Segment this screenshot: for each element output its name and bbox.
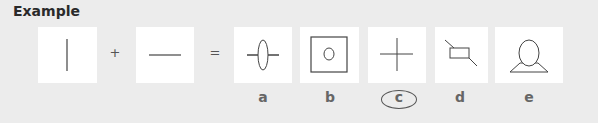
plus-cross-icon: [368, 27, 426, 83]
input-box-horizontal-line: [136, 27, 194, 83]
option-c-label[interactable]: c: [395, 89, 403, 105]
vertical-line-icon: [38, 27, 97, 83]
example-heading: Example: [13, 3, 80, 19]
option-e-label[interactable]: e: [524, 89, 534, 105]
option-c-box[interactable]: [368, 27, 426, 83]
option-b-label[interactable]: b: [325, 89, 335, 105]
input-box-vertical-line: [38, 27, 97, 83]
ellipse-on-trapezoid-icon: [495, 27, 563, 83]
option-a-label[interactable]: a: [258, 89, 267, 105]
equals-operator: =: [210, 45, 221, 60]
circle-in-square-icon: [300, 27, 359, 83]
option-a-box[interactable]: [234, 27, 292, 83]
option-e-box[interactable]: [495, 27, 563, 83]
plus-operator: +: [110, 45, 121, 60]
option-d-box[interactable]: [435, 27, 488, 83]
ellipse-with-line-icon: [234, 27, 292, 83]
option-b-box[interactable]: [300, 27, 359, 83]
option-d-label[interactable]: d: [455, 89, 465, 105]
horizontal-line-icon: [136, 27, 194, 83]
rectangle-with-diagonal-icon: [435, 27, 488, 83]
